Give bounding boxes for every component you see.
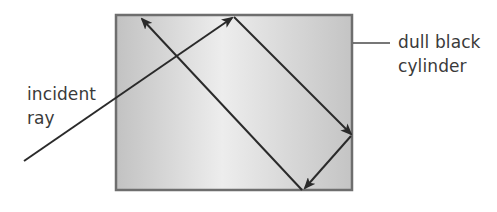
cylinder-box xyxy=(116,15,352,190)
incident-label-line2: ray xyxy=(27,106,96,130)
incident-label-line1: incident xyxy=(27,82,96,106)
cylinder-label: dull black cylinder xyxy=(398,30,481,78)
incident-ray-label: incident ray xyxy=(27,82,96,130)
cylinder-label-line2: cylinder xyxy=(398,54,481,78)
cylinder-label-line1: dull black xyxy=(398,30,481,54)
